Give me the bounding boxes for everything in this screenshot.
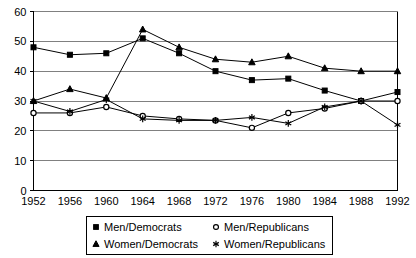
legend-item[interactable]: Men/Democrats xyxy=(94,221,183,233)
data-series xyxy=(30,26,400,104)
y-tick-label: 10 xyxy=(14,155,26,167)
marker-circle xyxy=(249,125,254,130)
x-tick-label: 1980 xyxy=(276,195,300,207)
marker-triangle xyxy=(139,26,145,32)
y-tick-label: 30 xyxy=(14,95,26,107)
marker-square xyxy=(177,51,182,56)
marker-circle xyxy=(104,104,109,109)
marker-square xyxy=(94,225,99,230)
legend-item-label: Men/Republicans xyxy=(224,221,309,233)
legend-item[interactable]: Women/Republicans xyxy=(213,238,326,250)
marker-square xyxy=(213,69,218,74)
legend-item[interactable]: Women/Democrats xyxy=(93,238,199,250)
x-tick-label: 1956 xyxy=(58,195,82,207)
x-tick-label: 1984 xyxy=(312,195,336,207)
x-tick-label: 1968 xyxy=(167,195,191,207)
chart-legend: Men/DemocratsMen/RepublicansWomen/Democr… xyxy=(87,217,333,255)
x-tick-label: 1952 xyxy=(21,195,45,207)
y-axis-tick-labels: 0102030405060 xyxy=(14,6,33,197)
marker-square xyxy=(395,90,400,95)
legend-item-label: Women/Republicans xyxy=(224,238,326,250)
x-axis-tick-labels: 1952195619601964196819721976198019841988… xyxy=(21,195,409,207)
marker-star xyxy=(395,121,401,128)
legend-item-label: Men/Democrats xyxy=(104,221,182,233)
grid-lines xyxy=(34,12,398,161)
y-tick-label: 20 xyxy=(14,125,26,137)
marker-triangle xyxy=(285,53,291,59)
legend-item[interactable]: Men/Republicans xyxy=(214,221,310,233)
x-tick-label: 1964 xyxy=(130,195,154,207)
marker-circle xyxy=(214,225,219,230)
chart-canvas: 0102030405060 19521956196019641968197219… xyxy=(0,0,416,258)
marker-square xyxy=(249,78,254,83)
series-line xyxy=(34,29,398,101)
marker-square xyxy=(140,36,145,41)
marker-square xyxy=(67,52,72,57)
x-tick-label: 1960 xyxy=(94,195,118,207)
marker-circle xyxy=(286,110,291,115)
marker-square xyxy=(31,45,36,50)
marker-circle xyxy=(31,110,36,115)
y-tick-label: 40 xyxy=(14,65,26,77)
legend-item-label: Women/Democrats xyxy=(104,238,198,250)
marker-square xyxy=(286,76,291,81)
y-tick-label: 50 xyxy=(14,35,26,47)
marker-triangle xyxy=(67,86,73,92)
line-chart: 0102030405060 19521956196019641968197219… xyxy=(0,0,416,258)
marker-circle xyxy=(395,98,400,103)
marker-triangle xyxy=(176,44,182,50)
x-tick-label: 1976 xyxy=(240,195,264,207)
marker-square xyxy=(322,88,327,93)
x-tick-label: 1972 xyxy=(203,195,227,207)
y-tick-label: 60 xyxy=(14,6,26,18)
x-tick-label: 1988 xyxy=(349,195,373,207)
x-tick-label: 1992 xyxy=(385,195,409,207)
marker-square xyxy=(104,51,109,56)
